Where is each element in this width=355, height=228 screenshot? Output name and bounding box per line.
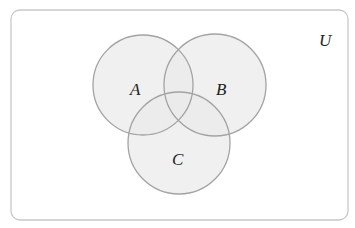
venn-diagram: U A B C: [0, 0, 355, 228]
set-c-label: C: [172, 150, 184, 169]
set-a-label: A: [129, 80, 141, 99]
set-b-label: B: [216, 80, 227, 99]
universe-label: U: [319, 31, 333, 50]
